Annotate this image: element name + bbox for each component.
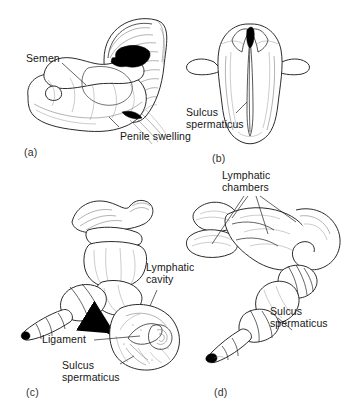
label-sulcus-spermaticus-c: Sulcus spermaticus <box>62 360 120 383</box>
label-penile-swelling: Penile swelling <box>120 131 191 143</box>
panel-letter-b: (b) <box>212 152 225 164</box>
leader-lymphatic-chambers <box>212 196 296 244</box>
label-lymphatic-cavity: Lymphatic cavity <box>146 262 194 285</box>
cross-section-inset <box>110 304 180 370</box>
inset-arrow <box>86 316 112 332</box>
panel-letter-d: (d) <box>214 386 227 398</box>
label-semen: Semen <box>26 53 60 65</box>
label-lymphatic-chambers: Lymphatic chambers <box>222 170 270 193</box>
label-ligament: Ligament <box>42 334 86 346</box>
figure-plate: Semen Penile swelling (a) Sulcus spermat… <box>0 0 352 420</box>
leader-ligament <box>94 336 140 340</box>
panel-letter-c: (c) <box>26 386 39 398</box>
panel-a-artwork <box>28 19 167 144</box>
leader-sulcus-spermaticus-c <box>120 356 134 364</box>
panel-letter-a: (a) <box>24 146 37 158</box>
leader-penile-swelling <box>109 117 119 127</box>
panel-d-artwork <box>186 202 340 363</box>
calyx-fan <box>104 19 167 123</box>
label-sulcus-spermaticus-d: Sulcus spermaticus <box>270 306 328 329</box>
label-sulcus-spermaticus-b: Sulcus spermaticus <box>186 107 244 130</box>
leader-lymphatic-cavity <box>150 290 157 306</box>
leader-semen <box>62 63 86 85</box>
